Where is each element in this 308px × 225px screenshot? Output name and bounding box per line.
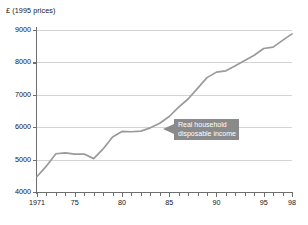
series-callout: Real household disposable income bbox=[174, 119, 239, 140]
callout-line-1: Real household bbox=[178, 121, 236, 130]
chart-container: £ (1995 prices) 900080007000600050004000… bbox=[0, 0, 308, 225]
callout-line-2: disposable income bbox=[178, 130, 236, 139]
series-layer bbox=[0, 0, 308, 225]
series-line-real-household-disposable-income bbox=[37, 34, 292, 177]
callout-pointer-icon bbox=[163, 124, 174, 134]
